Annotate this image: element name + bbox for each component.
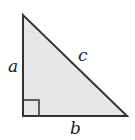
right-triangle-diagram: a b c xyxy=(0,0,135,140)
hypotenuse-c-label: c xyxy=(78,45,88,65)
leg-a-label: a xyxy=(8,56,18,76)
leg-b-label: b xyxy=(70,118,81,138)
